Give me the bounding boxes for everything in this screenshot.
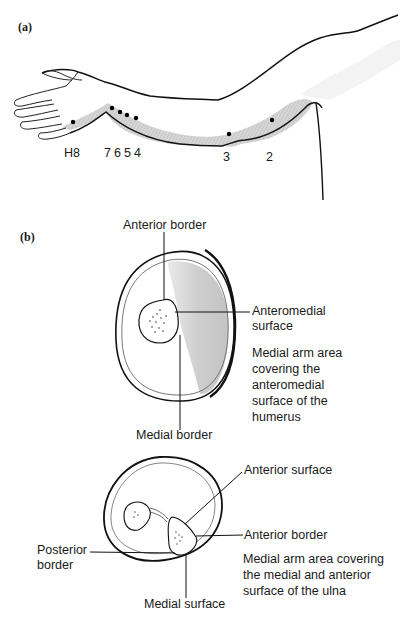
point-label-5: 5 — [124, 146, 131, 161]
point-label-2: 2 — [266, 150, 273, 165]
panel-b-label: (b) — [20, 230, 35, 245]
point-h8-dot — [71, 120, 75, 124]
point-label-4: 4 — [134, 146, 141, 161]
ulna-posterior-border-label: Posterior border — [37, 543, 87, 573]
ulna-medial-surface-label: Medial surface — [144, 597, 225, 612]
humerus-cross-section — [116, 232, 250, 430]
humerus-anterior-border-label: Anterior border — [123, 218, 206, 233]
panel-a-label: (a) — [18, 20, 32, 35]
point-label-6: 6 — [114, 146, 121, 161]
point-label-h8: H8 — [64, 146, 80, 161]
point-6-dot — [118, 110, 122, 114]
humerus-medial-border-label: Medial border — [136, 428, 212, 443]
ulna-anterior-surface-label: Anterior surface — [244, 463, 332, 478]
point-4-dot — [134, 116, 138, 120]
point-7-dot — [110, 106, 114, 110]
humerus-caption: Medial arm area covering the anteromedia… — [252, 345, 342, 425]
humerus-anteromedial-surface-label: Anteromedial surface — [252, 304, 326, 334]
figure-drawing — [0, 0, 405, 617]
point-label-7: 7 — [104, 146, 111, 161]
point-2-dot — [270, 118, 274, 122]
ulna-caption: Medial arm area covering the medial and … — [243, 551, 384, 599]
point-3-dot — [227, 132, 231, 136]
point-5-dot — [125, 113, 129, 117]
arm-illustration — [14, 15, 400, 200]
ulna-anterior-border-label: Anterior border — [244, 528, 327, 543]
forearm-cross-section — [90, 457, 243, 598]
point-label-3: 3 — [223, 150, 230, 165]
